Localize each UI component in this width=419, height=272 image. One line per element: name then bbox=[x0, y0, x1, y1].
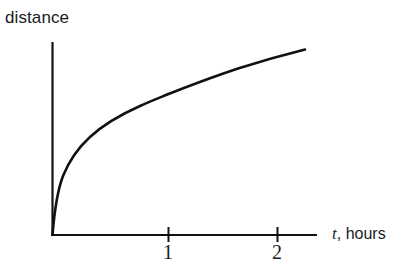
x-axis-label: t, hours bbox=[332, 224, 386, 243]
graph-figure: distance t, hours 1 2 bbox=[0, 0, 419, 272]
distance-curve bbox=[53, 50, 306, 236]
x-tick-label-2: 2 bbox=[265, 241, 289, 263]
x-axis-label-rest: , hours bbox=[337, 225, 386, 242]
y-axis-label: distance bbox=[5, 8, 69, 28]
x-tick-label-1: 1 bbox=[156, 241, 180, 263]
